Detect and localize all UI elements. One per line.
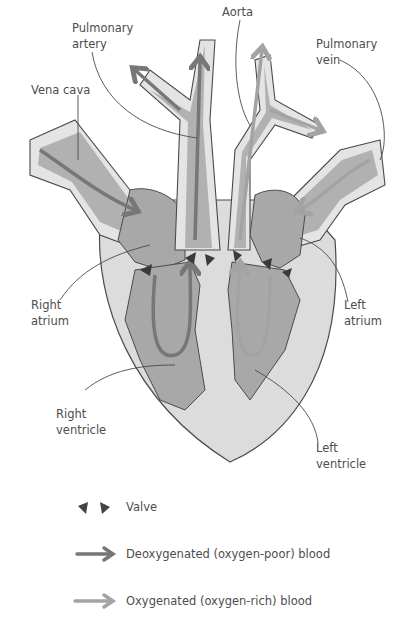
label-pulmonary-artery: Pulmonary artery (72, 20, 133, 52)
oxygenated-arrow-icon (72, 592, 120, 610)
legend-deoxygenated-label: Deoxygenated (oxygen-poor) blood (126, 547, 330, 561)
label-right-ventricle: Right ventricle (56, 406, 106, 438)
label-right-atrium: Right atrium (31, 297, 69, 329)
legend-oxygenated-label: Oxygenated (oxygen-rich) blood (126, 594, 312, 608)
label-pulmonary-vein: Pulmonary vein (316, 36, 377, 68)
deoxygenated-arrow-icon (74, 545, 120, 563)
valve-icon (76, 500, 116, 518)
right-ventricle-chamber (125, 262, 205, 410)
label-aorta: Aorta (222, 4, 253, 20)
legend-valve-label: Valve (126, 500, 157, 514)
label-vena-cava: Vena cava (31, 82, 90, 98)
label-left-atrium: Left atrium (344, 297, 382, 329)
heart-diagram: Pulmonary artery Aorta Pulmonary vein Ve… (0, 0, 411, 632)
label-left-ventricle: Left ventricle (316, 440, 366, 472)
